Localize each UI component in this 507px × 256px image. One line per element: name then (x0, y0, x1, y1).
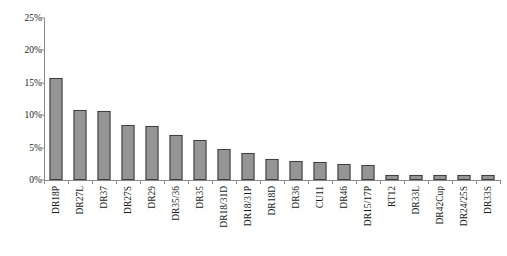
bar (194, 140, 207, 180)
bar (170, 135, 183, 180)
x-axis-tick-mark (68, 180, 69, 184)
x-axis-tick-mark (284, 180, 285, 184)
x-axis-tick-mark (212, 180, 213, 184)
x-axis-label: DR42Cup (435, 186, 445, 225)
bar (218, 149, 231, 180)
bar-slot (452, 18, 476, 180)
x-axis-tick-mark (260, 180, 261, 184)
bar-slot (356, 18, 380, 180)
x-axis-label: DR27S (123, 186, 133, 214)
x-axis-label: DR33S (483, 186, 493, 214)
bar-slot (428, 18, 452, 180)
bar (290, 161, 303, 180)
x-axis-tick-mark (236, 180, 237, 184)
bar (386, 175, 399, 180)
bar-slot (44, 18, 68, 180)
bar-chart: 0%5%10%15%20%25% DR18PDR27LDR37DR27SDR29… (0, 0, 507, 256)
bar-slot (236, 18, 260, 180)
bar-slot (380, 18, 404, 180)
bar-slot (212, 18, 236, 180)
x-axis-label: CU11 (315, 186, 325, 208)
x-axis-label: DR35 (195, 186, 205, 209)
bar-slot (92, 18, 116, 180)
bar-slot (476, 18, 500, 180)
bar (458, 175, 471, 180)
bar (314, 162, 327, 180)
bar (146, 126, 159, 180)
x-axis-tick-mark (452, 180, 453, 184)
bar-slot (332, 18, 356, 180)
x-axis-tick-mark (44, 180, 45, 184)
bar-slot (284, 18, 308, 180)
x-axis-line (44, 180, 500, 181)
x-axis-label: DR35/36 (171, 186, 181, 221)
bar-slot (188, 18, 212, 180)
bar (410, 175, 423, 180)
x-axis-tick-mark (140, 180, 141, 184)
x-axis-label: DR33L (411, 186, 421, 215)
x-axis-tick-mark (428, 180, 429, 184)
x-axis-tick-mark (356, 180, 357, 184)
x-axis-label: DR37 (99, 186, 109, 209)
x-axis-label: RT12 (387, 186, 397, 207)
bar (50, 78, 63, 180)
bar-slot (308, 18, 332, 180)
bar (98, 111, 111, 180)
bar (242, 153, 255, 180)
bar-series (44, 18, 500, 180)
x-axis-label: DR29 (147, 186, 157, 209)
bar (122, 125, 135, 180)
x-axis-tick-mark (476, 180, 477, 184)
x-axis-tick-mark (92, 180, 93, 184)
x-axis-label: DR24/25S (459, 186, 469, 226)
bar (434, 175, 447, 180)
x-axis-label: DR18/31P (243, 186, 253, 226)
x-axis-tick-mark (164, 180, 165, 184)
x-axis-label: DR46 (339, 186, 349, 209)
bar-slot (68, 18, 92, 180)
x-axis-label: DR15/17P (363, 186, 373, 226)
bar-slot (140, 18, 164, 180)
x-axis-label: DR18P (51, 186, 61, 214)
x-axis-tick-mark (380, 180, 381, 184)
x-axis-tick-mark (116, 180, 117, 184)
x-axis-tick-mark (332, 180, 333, 184)
bar (266, 159, 279, 180)
bar-slot (260, 18, 284, 180)
bar-slot (116, 18, 140, 180)
x-axis-label: DR18D (267, 186, 277, 216)
bar (338, 164, 351, 180)
x-axis-tick-mark (500, 180, 501, 184)
bar (362, 165, 375, 180)
bar (74, 110, 87, 180)
bar (482, 175, 495, 180)
x-axis-label: DR36 (291, 186, 301, 209)
bar-slot (404, 18, 428, 180)
x-axis-label: DR27L (75, 186, 85, 215)
x-axis-tick-mark (308, 180, 309, 184)
x-axis-tick-mark (188, 180, 189, 184)
x-axis-tick-mark (404, 180, 405, 184)
bar-slot (164, 18, 188, 180)
x-axis-label: DR18/31D (219, 186, 229, 228)
